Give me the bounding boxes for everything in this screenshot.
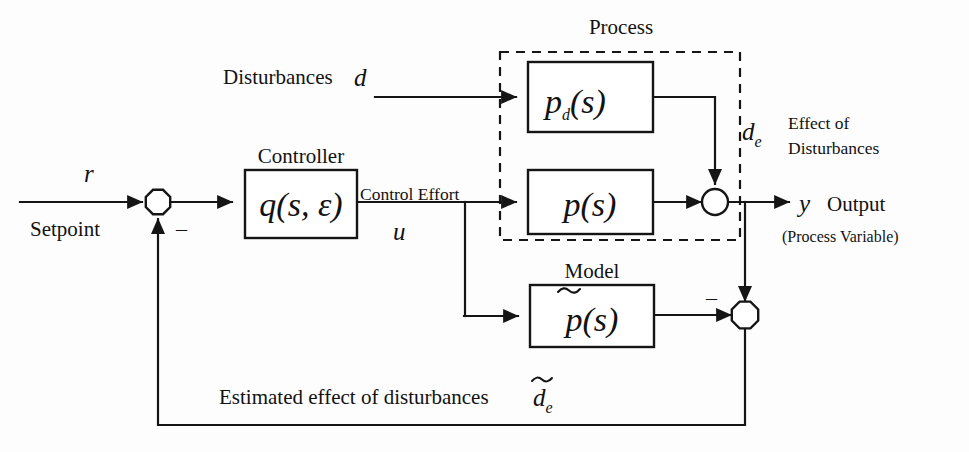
controller-block-expression: q(s, ε) <box>259 186 342 224</box>
output-symbol-label: y <box>796 190 811 217</box>
process-group-caption: Process <box>589 15 653 39</box>
wire-pd-to-output-sum <box>653 97 715 184</box>
controller-block-caption: Controller <box>258 144 344 168</box>
estimated-effect-name-label: Estimated effect of disturbances <box>219 385 489 409</box>
block-diagram-canvas: Process Controller Model q(s, ε) pd(s) p… <box>0 0 969 452</box>
control-effort-name-label: Control Effort <box>360 184 459 204</box>
model-block-caption: Model <box>565 259 620 283</box>
disturbance-plant-block-expression: pd(s) <box>543 83 606 123</box>
control-block-diagram: Process Controller Model q(s, ε) pd(s) p… <box>0 0 969 452</box>
output-summing-junction[interactable] <box>702 189 728 215</box>
estimated-effect-tilde-accent <box>532 378 552 382</box>
disturbance-effect-line1-label: Effect of <box>788 113 850 133</box>
estimated-effect-symbol-label: de <box>533 384 553 416</box>
control-effort-symbol-label: u <box>393 218 406 245</box>
error-summing-junction[interactable] <box>146 190 170 214</box>
disturbance-effect-line2-label: Disturbances <box>788 138 880 158</box>
plant-block-expression: p(s) <box>562 186 617 224</box>
model-block-expression: p(s) <box>564 301 619 339</box>
error-sum-minus-sign: – <box>175 216 188 241</box>
estimated-effect-symbol-group: de <box>532 378 553 416</box>
model-sum-minus-sign: – <box>705 285 718 310</box>
output-name-label: Output <box>827 192 886 216</box>
disturbances-name-label: Disturbances <box>223 65 333 89</box>
disturbance-estimate-summing-junction[interactable] <box>732 302 758 329</box>
setpoint-name-label: Setpoint <box>30 217 100 241</box>
disturbance-effect-symbol-label: de <box>742 118 762 150</box>
disturbances-symbol-label: d <box>354 64 367 91</box>
output-subtitle-label: (Process Variable) <box>782 228 899 246</box>
setpoint-symbol-label: r <box>84 160 94 187</box>
